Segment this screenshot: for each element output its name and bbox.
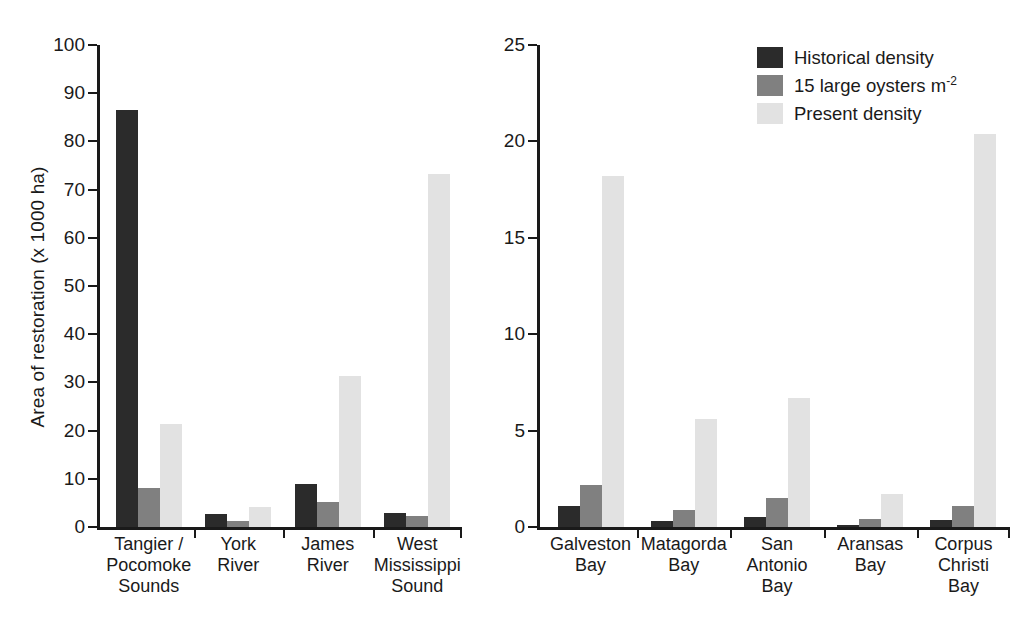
- bar-right-panel-1-0: [651, 521, 673, 527]
- y-tick-right-panel-5: [528, 430, 537, 432]
- legend-label-15-large-oysters-exponent: -2: [946, 74, 957, 88]
- y-tick-label-right-panel-5: 5: [477, 420, 525, 442]
- y-tick-label-left-panel-80: 80: [23, 130, 85, 152]
- x-axis-label-right-panel-1: Matagorda Bay: [637, 534, 730, 576]
- legend-label-15-large-oysters-text: 15 large oysters m: [794, 75, 946, 96]
- y-tick-label-left-panel-90: 90: [23, 82, 85, 104]
- legend-label-historical-density: Historical density: [794, 47, 934, 69]
- x-axis-label-left-panel-3: West Mississippi Sound: [373, 534, 463, 598]
- y-tick-left-panel-50: [88, 285, 97, 287]
- bar-right-panel-2-2: [788, 398, 810, 527]
- y-tick-left-panel-90: [88, 92, 97, 94]
- x-axis-label-left-panel-0: Tangier / Pocomoke Sounds: [104, 534, 194, 598]
- x-axis-label-right-panel-0: Galveston Bay: [544, 534, 637, 576]
- legend-label-15-large-oysters: 15 large oysters m-2: [794, 74, 957, 97]
- bar-right-panel-3-0: [837, 525, 859, 527]
- bar-left-panel-2-0: [295, 484, 317, 527]
- y-tick-right-panel-25: [528, 44, 537, 46]
- y-tick-left-panel-60: [88, 237, 97, 239]
- y-tick-left-panel-30: [88, 381, 97, 383]
- x-axis-label-left-panel-1: York River: [194, 534, 284, 576]
- y-tick-left-panel-80: [88, 140, 97, 142]
- y-tick-left-panel-100: [88, 44, 97, 46]
- y-tick-label-right-panel-0: 0: [477, 516, 525, 538]
- y-tick-left-panel-20: [88, 430, 97, 432]
- y-tick-label-left-panel-60: 60: [23, 227, 85, 249]
- bar-left-panel-3-1: [406, 516, 428, 527]
- y-tick-label-right-panel-15: 15: [477, 227, 525, 249]
- y-tick-left-panel-40: [88, 333, 97, 335]
- x-axis-label-right-panel-2: San Antonio Bay: [730, 534, 823, 598]
- bar-right-panel-3-2: [881, 494, 903, 527]
- bar-left-panel-0-1: [138, 488, 160, 527]
- x-tick-end-left-panel: [460, 530, 462, 538]
- legend-swatch-historical-density: [757, 47, 783, 68]
- bar-right-panel-2-0: [744, 517, 766, 527]
- bar-right-panel-2-1: [766, 498, 788, 527]
- y-tick-label-left-panel-10: 10: [23, 468, 85, 490]
- bar-left-panel-1-1: [227, 521, 249, 527]
- y-tick-label-left-panel-70: 70: [23, 179, 85, 201]
- legend-swatch-15-large-oysters: [757, 75, 783, 96]
- bar-left-panel-0-2: [160, 424, 182, 527]
- bar-left-panel-2-2: [339, 376, 361, 527]
- bar-left-panel-3-0: [384, 513, 406, 527]
- y-tick-left-panel-0: [88, 526, 97, 528]
- y-tick-label-left-panel-100: 100: [23, 34, 85, 56]
- legend-item-15-large-oysters: 15 large oysters m-2: [757, 72, 957, 99]
- bar-right-panel-1-1: [673, 510, 695, 527]
- bar-right-panel-0-0: [558, 506, 580, 527]
- y-tick-right-panel-0: [528, 526, 537, 528]
- legend-swatch-present-density: [757, 103, 783, 124]
- x-axis-label-right-panel-4: Corpus Christi Bay: [917, 534, 1010, 598]
- y-tick-label-right-panel-25: 25: [477, 34, 525, 56]
- y-tick-label-right-panel-20: 20: [477, 130, 525, 152]
- bar-left-panel-3-2: [428, 174, 450, 527]
- bar-left-panel-1-2: [249, 507, 271, 527]
- x-tick-end-right-panel: [1008, 530, 1010, 538]
- bar-left-panel-0-0: [116, 110, 138, 527]
- bar-right-panel-0-1: [580, 485, 602, 527]
- y-tick-label-right-panel-10: 10: [477, 323, 525, 345]
- y-axis-right-panel: [537, 45, 540, 530]
- y-tick-right-panel-10: [528, 333, 537, 335]
- bar-right-panel-4-2: [974, 134, 996, 527]
- bar-right-panel-4-1: [952, 506, 974, 527]
- legend-item-present-density: Present density: [757, 100, 957, 127]
- legend-item-historical-density: Historical density: [757, 44, 957, 71]
- x-axis-label-left-panel-2: James River: [283, 534, 373, 576]
- legend-label-present-density: Present density: [794, 103, 922, 125]
- x-axis-label-right-panel-3: Aransas Bay: [824, 534, 917, 576]
- x-axis-right-panel: [537, 527, 1010, 530]
- y-tick-label-left-panel-50: 50: [23, 275, 85, 297]
- bar-chart-figure: Area of restoration (x 1000 ha) Historic…: [0, 0, 1031, 632]
- y-tick-left-panel-10: [88, 478, 97, 480]
- bar-right-panel-3-1: [859, 519, 881, 527]
- bar-right-panel-1-2: [695, 419, 717, 527]
- bar-left-panel-1-0: [205, 514, 227, 527]
- y-tick-label-left-panel-30: 30: [23, 371, 85, 393]
- bar-right-panel-0-2: [602, 176, 624, 527]
- y-tick-label-left-panel-20: 20: [23, 420, 85, 442]
- y-tick-right-panel-15: [528, 237, 537, 239]
- chart-legend: Historical density 15 large oysters m-2 …: [757, 44, 957, 128]
- y-tick-right-panel-20: [528, 140, 537, 142]
- bar-left-panel-2-1: [317, 502, 339, 527]
- x-axis-left-panel: [97, 527, 462, 530]
- y-tick-label-left-panel-40: 40: [23, 323, 85, 345]
- bar-right-panel-4-0: [930, 520, 952, 527]
- y-tick-left-panel-70: [88, 189, 97, 191]
- y-axis-left-panel: [97, 45, 100, 530]
- y-tick-label-left-panel-0: 0: [23, 516, 85, 538]
